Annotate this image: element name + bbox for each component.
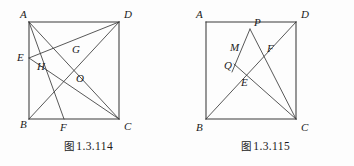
figure-114-caption: 图1.3.114 — [0, 138, 177, 153]
fig114-label-B: B — [20, 118, 27, 130]
fig114-label-O: O — [76, 72, 84, 84]
fig114-label-F: F — [59, 121, 67, 133]
fig115-label-C: C — [301, 121, 309, 133]
fig115-label-F: F — [266, 42, 274, 54]
figure-115-caption-number: 1.3.115 — [253, 140, 290, 152]
figure-114-container: A D B C E F G H O 图1.3.114 — [0, 0, 177, 166]
fig114-segment-AF — [29, 22, 64, 119]
figure-115-container: A D B C P M F Q E 图1.3.115 — [177, 0, 354, 166]
fig114-label-G: G — [72, 43, 80, 55]
figure-115-drawing: A D B C P M F Q E — [177, 0, 354, 140]
fig115-label-M: M — [229, 41, 240, 53]
figure-114-drawing: A D B C E F G H O — [0, 0, 177, 140]
figure-115-caption-cn: 图 — [241, 140, 253, 152]
fig115-label-B: B — [196, 121, 203, 133]
figure-sheet: A D B C E F G H O 图1.3.114 A — [0, 0, 354, 166]
fig115-diagonal-BD — [206, 22, 296, 119]
fig114-label-D: D — [123, 8, 132, 20]
fig114-label-A: A — [19, 8, 27, 20]
fig114-label-E: E — [16, 51, 24, 63]
figure-114-caption-cn: 图 — [64, 140, 76, 152]
fig115-label-A: A — [195, 8, 203, 20]
figure-115-caption: 图1.3.115 — [177, 138, 354, 153]
fig114-label-H: H — [36, 60, 46, 72]
fig115-label-E: E — [240, 76, 248, 88]
fig115-label-P: P — [253, 16, 261, 28]
figure-114-caption-number: 1.3.114 — [76, 140, 113, 152]
fig115-segment-QC — [234, 64, 296, 119]
fig115-label-D: D — [300, 8, 309, 20]
fig115-label-Q: Q — [224, 59, 232, 71]
fig114-label-C: C — [124, 120, 132, 132]
